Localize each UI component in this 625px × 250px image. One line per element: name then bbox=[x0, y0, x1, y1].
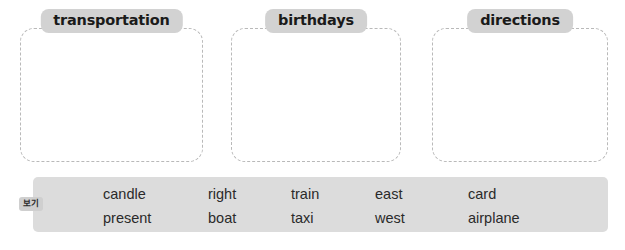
category-label-directions: directions bbox=[467, 9, 573, 33]
word-bank-tag: 보기 bbox=[19, 197, 43, 211]
word-item[interactable]: train bbox=[291, 184, 375, 204]
word-column: train taxi bbox=[291, 184, 375, 228]
word-item[interactable]: west bbox=[375, 208, 468, 228]
word-item[interactable]: right bbox=[208, 184, 291, 204]
category-group-transportation: transportation bbox=[20, 28, 203, 162]
word-column: candle present bbox=[103, 184, 208, 228]
word-column: east west bbox=[375, 184, 468, 228]
category-dropzone-birthdays[interactable] bbox=[231, 28, 401, 162]
category-label-birthdays: birthdays bbox=[265, 9, 367, 33]
category-group-birthdays: birthdays bbox=[231, 28, 401, 162]
word-bank-columns: candle present right boat train taxi eas… bbox=[103, 184, 604, 226]
word-item[interactable]: candle bbox=[103, 184, 208, 204]
word-column: right boat bbox=[208, 184, 291, 228]
worksheet: transportation birthdays directions 보기 c… bbox=[0, 0, 625, 250]
category-group-directions: directions bbox=[432, 28, 608, 162]
word-bank: 보기 candle present right boat train taxi … bbox=[33, 177, 608, 232]
word-item[interactable]: present bbox=[103, 208, 208, 228]
word-item[interactable]: east bbox=[375, 184, 468, 204]
word-item[interactable]: boat bbox=[208, 208, 291, 228]
category-dropzone-transportation[interactable] bbox=[20, 28, 203, 162]
word-item[interactable]: airplane bbox=[468, 208, 578, 228]
category-dropzone-directions[interactable] bbox=[432, 28, 608, 162]
word-item[interactable]: taxi bbox=[291, 208, 375, 228]
category-label-transportation: transportation bbox=[40, 9, 182, 33]
word-column: card airplane bbox=[468, 184, 578, 228]
word-item[interactable]: card bbox=[468, 184, 578, 204]
